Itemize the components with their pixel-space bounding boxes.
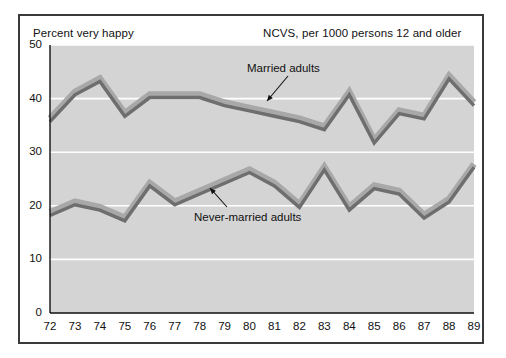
x-tick-86: 86 bbox=[388, 320, 410, 332]
y-tick-20: 20 bbox=[18, 199, 42, 211]
y-tick-0: 0 bbox=[18, 306, 42, 318]
x-tick-77: 77 bbox=[164, 320, 186, 332]
x-tick-72: 72 bbox=[39, 320, 61, 332]
x-tick-89: 89 bbox=[463, 320, 485, 332]
chart-figure bbox=[0, 0, 506, 358]
y-tick-10: 10 bbox=[18, 252, 42, 264]
x-tick-75: 75 bbox=[114, 320, 136, 332]
x-tick-80: 80 bbox=[239, 320, 261, 332]
x-tick-87: 87 bbox=[413, 320, 435, 332]
chart-title: Percent very happy bbox=[33, 27, 134, 39]
y-tick-50: 50 bbox=[18, 38, 42, 50]
x-tick-81: 81 bbox=[263, 320, 285, 332]
x-tick-73: 73 bbox=[64, 320, 86, 332]
y-tick-40: 40 bbox=[18, 92, 42, 104]
x-tick-76: 76 bbox=[139, 320, 161, 332]
chart-subtitle: NCVS, per 1000 persons 12 and older bbox=[263, 27, 461, 39]
series-label-never-married: Never-married adults bbox=[194, 211, 301, 223]
x-tick-88: 88 bbox=[438, 320, 460, 332]
series-label-married: Married adults bbox=[247, 62, 320, 74]
x-tick-83: 83 bbox=[313, 320, 335, 332]
x-tick-74: 74 bbox=[89, 320, 111, 332]
y-tick-30: 30 bbox=[18, 145, 42, 157]
x-tick-78: 78 bbox=[189, 320, 211, 332]
x-tick-79: 79 bbox=[214, 320, 236, 332]
x-tick-84: 84 bbox=[338, 320, 360, 332]
x-tick-85: 85 bbox=[363, 320, 385, 332]
x-tick-82: 82 bbox=[288, 320, 310, 332]
